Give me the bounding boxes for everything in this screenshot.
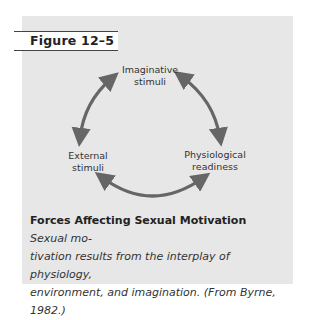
- caption-line-1: Forces Affecting Sexual Motivation Sexua…: [30, 212, 285, 248]
- caption-body-4: 1982.): [30, 302, 285, 320]
- caption-body-3: environment, and imagination. (From Byrn…: [30, 284, 285, 302]
- node-external-line1: External: [38, 150, 138, 162]
- node-external-line2: stimuli: [38, 162, 138, 174]
- figure-caption: Forces Affecting Sexual Motivation Sexua…: [30, 212, 285, 320]
- node-imaginative-line1: Imaginative: [100, 64, 200, 76]
- node-imaginative-stimuli: Imaginative stimuli: [100, 64, 200, 88]
- caption-title: Forces Affecting Sexual Motivation: [30, 214, 246, 227]
- node-physiological-line1: Physiological: [165, 149, 265, 161]
- caption-body-2: tivation results from the interplay of p…: [30, 248, 285, 284]
- node-physiological-readiness: Physiological readiness: [165, 149, 265, 173]
- caption-body-1: Sexual mo-: [30, 232, 92, 245]
- node-external-stimuli: External stimuli: [38, 150, 138, 174]
- arrow-external-physiological: [103, 178, 203, 196]
- node-physiological-line2: readiness: [165, 161, 265, 173]
- node-imaginative-line2: stimuli: [100, 76, 200, 88]
